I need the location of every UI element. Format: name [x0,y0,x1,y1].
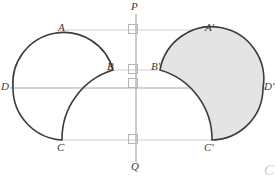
label-B: B [107,61,114,72]
label-A: A [58,22,65,33]
label-A-prime: A' [205,22,214,33]
label-Q: Q [131,161,139,172]
geometry-figure-canvas: P Q D D' A A' B B' C C' C [0,0,276,178]
reflected-figure-shape [160,27,264,140]
label-P: P [131,1,138,12]
label-D: D [1,81,9,92]
label-C-prime: C' [204,142,214,153]
reflection-diagram [0,0,276,178]
label-D-prime: D' [264,81,274,92]
original-figure-shape [13,32,113,140]
label-C: C [57,142,64,153]
corner-watermark-glyph: C [264,163,274,178]
label-B-prime: B' [151,61,160,72]
